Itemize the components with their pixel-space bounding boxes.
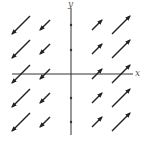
y-axis-tick xyxy=(70,121,72,123)
arrow-up-right-icon xyxy=(112,16,130,34)
arrow-up-right-icon xyxy=(112,40,130,58)
arrow-up-right-icon xyxy=(92,117,102,127)
arrow-up-right-icon xyxy=(92,44,102,54)
arrow-down-left-icon xyxy=(40,44,50,54)
arrow-down-left-icon xyxy=(12,16,30,34)
arrow-down-left-icon xyxy=(40,117,50,127)
vector-field-diagram xyxy=(0,0,142,145)
y-axis-tick xyxy=(70,97,72,99)
arrow-up-right-icon xyxy=(112,89,130,107)
x-axis-label: x xyxy=(135,69,140,78)
arrow-down-left-icon xyxy=(12,40,30,58)
arrow-down-left-icon xyxy=(40,93,50,103)
y-axis-tick xyxy=(70,24,72,26)
y-axis-label: y xyxy=(68,0,73,9)
arrow-up-right-icon xyxy=(112,113,130,131)
arrow-down-left-icon xyxy=(12,113,30,131)
y-axis-tick xyxy=(70,49,72,51)
arrow-down-left-icon xyxy=(40,20,50,30)
arrow-up-right-icon xyxy=(92,93,102,103)
axes xyxy=(12,8,133,135)
arrow-down-left-icon xyxy=(12,89,30,107)
arrow-up-right-icon xyxy=(92,20,102,30)
